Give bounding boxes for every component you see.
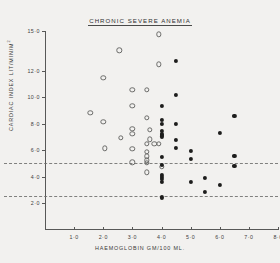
data-point-open-circle (156, 61, 161, 66)
data-point-filled-circle (232, 164, 236, 168)
y-tick-mark (42, 97, 45, 98)
x-tick-mark (249, 227, 250, 230)
y-tick-mark (42, 177, 45, 178)
x-tick-mark (74, 227, 75, 230)
data-point-open-circle (118, 135, 123, 140)
data-point-filled-circle (174, 59, 178, 63)
y-tick-label: 4·0 (31, 174, 40, 180)
data-point-open-circle (144, 87, 149, 92)
y-tick-label: 2·0 (31, 200, 40, 206)
data-point-filled-circle (218, 183, 222, 187)
x-tick-label: 6·0 (215, 234, 224, 240)
x-tick-label: 5·0 (186, 234, 195, 240)
x-tick-label: 1·0 (70, 234, 79, 240)
y-tick-mark (42, 150, 45, 151)
x-tick-mark (191, 227, 192, 230)
x-tick-label: 2·0 (99, 234, 108, 240)
y-tick-mark (42, 71, 45, 72)
y-tick-label: 12·0 (27, 68, 40, 74)
data-point-filled-circle (174, 138, 178, 142)
y-tick-mark (42, 124, 45, 125)
x-tick-mark (103, 227, 104, 230)
y-axis-label-text: CARDIAC INDEX LIT/MIN/M (8, 43, 14, 131)
chart-figure: CHRONIC SEVERE ANEMIA CARDIAC INDEX LIT/… (0, 0, 280, 263)
y-axis-line (45, 31, 46, 230)
data-point-filled-circle (203, 176, 207, 180)
data-point-open-circle (144, 170, 149, 175)
data-point-filled-circle (159, 134, 163, 138)
data-point-open-circle (117, 48, 122, 53)
data-point-open-circle (101, 119, 106, 124)
x-axis-label: HAEMOGLOBIN GM/100 ML. (0, 245, 280, 251)
data-point-filled-circle (189, 149, 193, 153)
data-point-filled-circle (159, 104, 163, 108)
data-point-filled-circle (189, 180, 193, 184)
y-axis-label-exponent: 2 (7, 40, 11, 43)
x-tick-label: 7·0 (244, 234, 253, 240)
data-point-open-circle (101, 75, 106, 80)
data-point-open-circle (87, 110, 92, 115)
reference-line-upper-normal-limit (4, 163, 278, 164)
data-point-filled-circle (218, 131, 222, 135)
data-point-open-circle (156, 141, 161, 146)
data-point-open-circle (130, 146, 135, 151)
plot-area: 2·04·06·08·010·012·015·0 1·02·03·04·05·0… (45, 31, 278, 230)
data-point-filled-circle (159, 195, 163, 199)
data-point-filled-circle (232, 154, 236, 158)
x-tick-label: 3·0 (128, 234, 137, 240)
y-tick-label: 8·0 (31, 121, 40, 127)
data-point-open-circle (147, 127, 152, 132)
data-point-open-circle (130, 103, 135, 108)
data-point-filled-circle (159, 122, 163, 126)
data-point-open-circle (144, 115, 149, 120)
data-point-filled-circle (189, 157, 193, 161)
data-point-filled-circle (232, 114, 236, 118)
data-point-open-circle (130, 160, 135, 165)
y-tick-mark (42, 31, 45, 32)
x-tick-label: 8·0 (273, 234, 280, 240)
y-tick-label: 10·0 (27, 94, 40, 100)
data-point-open-circle (156, 32, 161, 37)
data-point-open-circle (102, 146, 107, 151)
page-title: CHRONIC SEVERE ANEMIA (88, 17, 192, 26)
y-tick-mark (42, 203, 45, 204)
y-axis-label: CARDIAC INDEX LIT/MIN/M2 (7, 40, 14, 131)
x-tick-mark (220, 227, 221, 230)
data-point-open-circle (144, 160, 149, 165)
chart-title-container: CHRONIC SEVERE ANEMIA (0, 9, 280, 27)
x-tick-mark (278, 227, 279, 230)
x-tick-label: 4·0 (157, 234, 166, 240)
data-point-filled-circle (159, 155, 163, 159)
x-tick-mark (162, 227, 163, 230)
y-tick-label: 15·0 (27, 28, 40, 34)
data-point-open-circle (130, 131, 135, 136)
data-point-filled-circle (174, 93, 178, 97)
data-point-filled-circle (159, 179, 163, 183)
reference-line-lower-normal-limit (4, 196, 278, 197)
y-tick-label: 6·0 (31, 147, 40, 153)
x-tick-mark (132, 227, 133, 230)
data-point-filled-circle (174, 122, 178, 126)
data-point-filled-circle (174, 146, 178, 150)
data-point-open-circle (144, 141, 149, 146)
data-point-filled-circle (203, 189, 207, 193)
data-point-open-circle (130, 87, 135, 92)
